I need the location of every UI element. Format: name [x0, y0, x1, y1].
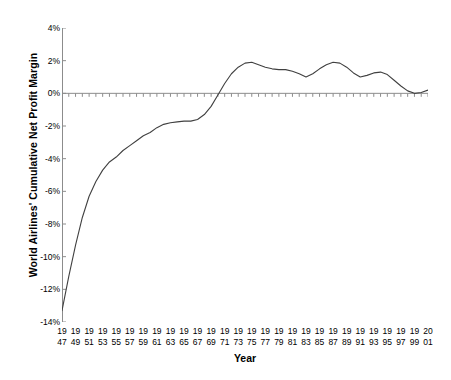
y-axis-tick-labels: 4%2%0%-2%-4%-6%-8%-10%-12%-14% — [26, 22, 60, 322]
y-tick-label: -8% — [45, 220, 60, 229]
x-tick-marks — [62, 93, 428, 97]
y-tick-label: -10% — [40, 252, 60, 261]
y-tick-label: 4% — [48, 24, 60, 33]
cumulative-net-profit-margin-chart: World Airlines' Cumulative Net Profit Ma… — [0, 0, 451, 380]
y-tick-marks — [62, 28, 66, 322]
x-tick-label-year: 01 — [417, 337, 439, 348]
x-tick-label: 2001 — [417, 326, 439, 348]
y-tick-label: -6% — [45, 187, 60, 196]
y-tick-label: -2% — [45, 122, 60, 131]
y-tick-label: -4% — [45, 154, 60, 163]
plot-svg — [62, 28, 428, 322]
profit-margin-line — [62, 62, 428, 310]
y-tick-label: 0% — [48, 89, 60, 98]
x-axis-tick-labels: 1947194919511953195519571959196119631965… — [62, 326, 432, 352]
plot-area — [62, 28, 428, 322]
y-tick-label: -12% — [40, 285, 60, 294]
x-tick-label-century: 20 — [417, 326, 439, 337]
x-axis-title: Year — [62, 352, 428, 365]
y-tick-label: 2% — [48, 56, 60, 65]
